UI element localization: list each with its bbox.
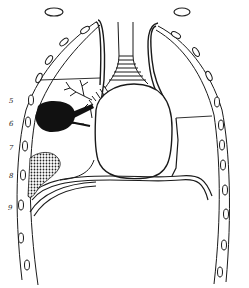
left-chest-wall	[17, 22, 100, 285]
right-rib-sections	[170, 30, 228, 277]
rib-label-9: 9	[8, 204, 13, 212]
top-rib-marker-left	[45, 8, 63, 16]
left-rib-sections	[19, 25, 91, 270]
heart	[60, 84, 172, 180]
rib-label-6: 6	[9, 120, 14, 128]
top-rib-marker-right	[174, 8, 190, 16]
rib-label-5: 5	[9, 97, 14, 105]
thorax-diagram: 5 6 7 8 9	[0, 0, 249, 288]
rib-label-8: 8	[9, 172, 14, 180]
hilar-lesion	[36, 101, 94, 132]
rib-labels: 5 6 7 8 9	[8, 97, 14, 212]
rib-label-7: 7	[9, 144, 14, 152]
